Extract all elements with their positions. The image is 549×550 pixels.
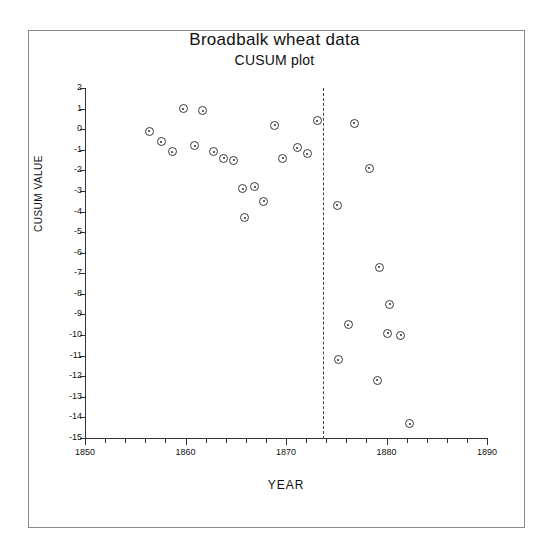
- y-axis-tick-label: 0: [77, 123, 82, 133]
- y-axis-tick-label: -14: [69, 411, 82, 421]
- x-axis-tick-mark: [387, 438, 388, 445]
- data-point: [278, 154, 287, 163]
- data-point: [168, 147, 177, 156]
- data-point: [259, 197, 268, 206]
- x-axis-tick-mark: [326, 438, 327, 443]
- data-point: [190, 141, 199, 150]
- data-point: [303, 149, 312, 158]
- data-point: [385, 300, 394, 309]
- data-point: [229, 156, 238, 165]
- y-axis-tick-label: -7: [74, 267, 82, 277]
- x-axis-tick-mark: [407, 438, 408, 443]
- y-axis-tick-label: -8: [74, 288, 82, 298]
- x-axis-tick-mark: [286, 438, 287, 445]
- x-axis-tick-mark: [206, 438, 207, 443]
- data-point: [145, 127, 154, 136]
- data-point: [383, 329, 392, 338]
- x-axis-tick-mark: [186, 438, 187, 445]
- data-point: [350, 119, 359, 128]
- screenshot-canvas: Broadbalk wheat data CUSUM plot CUSUM VA…: [0, 0, 549, 550]
- x-axis-tick-mark: [165, 438, 166, 443]
- y-axis-tick-label: -4: [74, 206, 82, 216]
- data-point: [250, 182, 259, 191]
- data-point: [373, 376, 382, 385]
- x-axis-tick-mark: [266, 438, 267, 443]
- y-axis-tick-label: -1: [74, 144, 82, 154]
- x-axis-tick-mark: [366, 438, 367, 443]
- y-axis-tick-label: -11: [70, 350, 82, 360]
- y-axis-tick-label: -6: [74, 247, 82, 257]
- x-axis-tick-label: 1860: [175, 447, 195, 457]
- y-axis-tick-label: -9: [74, 308, 82, 318]
- x-axis-tick-mark: [145, 438, 146, 443]
- x-axis-tick-label: 1880: [376, 447, 396, 457]
- y-axis-tick-label: -2: [74, 164, 82, 174]
- y-axis-tick-label: -10: [69, 329, 82, 339]
- x-axis-tick-mark: [447, 438, 448, 443]
- x-axis-tick-label: 1850: [75, 447, 95, 457]
- y-axis-tick-label: 1: [77, 103, 82, 113]
- data-point: [219, 154, 228, 163]
- x-axis-tick-mark: [346, 438, 347, 443]
- x-axis-tick-mark: [246, 438, 247, 443]
- data-point: [240, 213, 249, 222]
- y-axis-tick-label: -5: [74, 226, 82, 236]
- data-point: [238, 184, 247, 193]
- x-axis-tick-mark: [105, 438, 106, 443]
- data-point: [344, 320, 353, 329]
- y-axis-tick-label: 2: [77, 82, 82, 92]
- y-axis-tick-label: -3: [74, 185, 82, 195]
- data-point: [313, 116, 322, 125]
- x-axis-tick-mark: [125, 438, 126, 443]
- x-axis-tick-mark: [226, 438, 227, 443]
- x-axis-tick-mark: [306, 438, 307, 443]
- y-axis-tick-label: -13: [69, 391, 82, 401]
- data-point: [365, 164, 374, 173]
- y-axis-title: CUSUM VALUE: [33, 155, 44, 232]
- data-point: [157, 137, 166, 146]
- chart-title: Broadbalk wheat data: [0, 30, 549, 50]
- y-axis-tick-label: -12: [69, 370, 82, 380]
- x-axis-tick-label: 1890: [477, 447, 497, 457]
- data-point: [179, 104, 188, 113]
- x-axis-tick-mark: [427, 438, 428, 443]
- y-axis-tick-label: -15: [69, 432, 82, 442]
- x-axis-tick-label: 1870: [276, 447, 296, 457]
- x-axis-tick-mark: [85, 438, 86, 445]
- data-point: [270, 121, 279, 130]
- data-point: [405, 419, 414, 428]
- chart-subtitle: CUSUM plot: [0, 52, 549, 68]
- data-point: [375, 263, 384, 272]
- data-point: [293, 143, 302, 152]
- data-point: [209, 147, 218, 156]
- x-axis-tick-mark: [467, 438, 468, 443]
- data-point: [334, 355, 343, 364]
- data-point: [198, 106, 207, 115]
- x-axis-tick-mark: [487, 438, 488, 445]
- x-axis-title: YEAR: [85, 478, 487, 492]
- data-point: [396, 331, 405, 340]
- change-point-line-icon: [323, 88, 324, 439]
- plot-area: [85, 88, 487, 438]
- data-point: [333, 201, 342, 210]
